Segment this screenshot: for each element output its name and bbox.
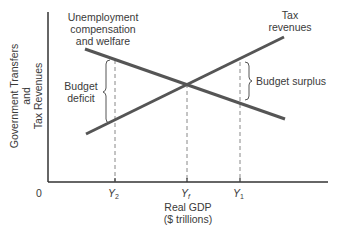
y1-sub: 1 bbox=[240, 193, 244, 200]
transfers-label-line: and welfare bbox=[62, 35, 144, 47]
y2-sub: 2 bbox=[115, 193, 119, 200]
y1-letter: Y bbox=[233, 187, 240, 199]
chart-canvas bbox=[0, 0, 344, 234]
tax-revenues-label: Tax revenues bbox=[260, 9, 320, 33]
transfers-label: Unemployment compensation and welfare bbox=[62, 11, 144, 47]
y2-letter: Y bbox=[108, 187, 115, 199]
yf-letter: Y bbox=[181, 187, 188, 199]
tax-label-line: revenues bbox=[260, 21, 320, 33]
x-axis-label: Real GDP ($ trillions) bbox=[157, 201, 219, 225]
budget-deficit-label: Budget deficit bbox=[60, 80, 102, 104]
y1-label: Y1 bbox=[233, 187, 244, 203]
x-axis-label-line-1: Real GDP bbox=[157, 201, 219, 213]
transfers-label-line: compensation bbox=[62, 23, 144, 35]
origin-label: 0 bbox=[36, 187, 42, 199]
y2-label: Y2 bbox=[108, 187, 119, 203]
transfers-label-line: Unemployment bbox=[62, 11, 144, 23]
surplus-brace-icon bbox=[245, 62, 252, 100]
deficit-label-line: deficit bbox=[60, 92, 102, 104]
tax-revenues-line bbox=[86, 37, 284, 134]
y-axis-label-line-2: Tax Revenues bbox=[32, 38, 44, 154]
y-axis-label-line-1: Government Transfers and bbox=[8, 38, 32, 154]
budget-surplus-label: Budget surplus bbox=[256, 75, 326, 87]
deficit-brace-icon bbox=[103, 60, 110, 123]
y-axis-label: Government Transfers and Tax Revenues bbox=[8, 38, 44, 154]
tax-label-line: Tax bbox=[260, 9, 320, 21]
x-axis-label-line-2: ($ trillions) bbox=[157, 213, 219, 225]
deficit-label-line: Budget bbox=[60, 80, 102, 92]
yf-sub: f bbox=[188, 193, 190, 200]
